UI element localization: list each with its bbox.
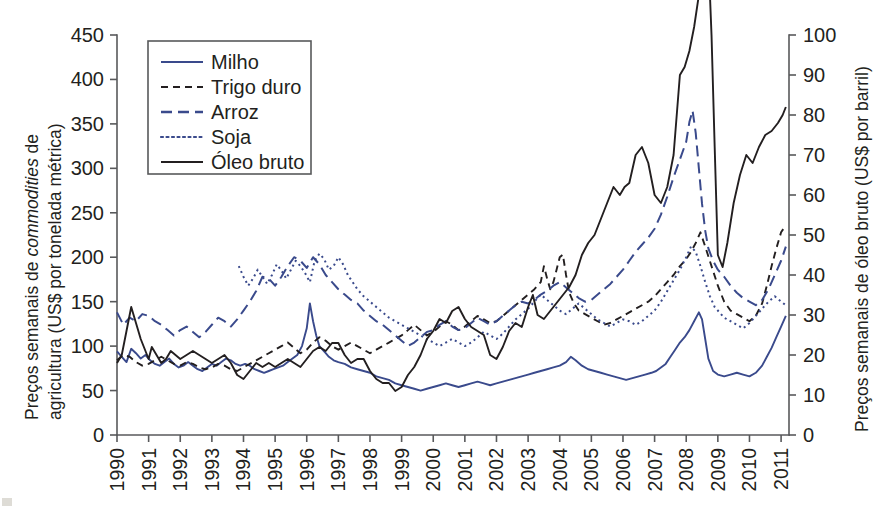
ylabel-left-line2: agricultura (US$ por tonelada métrica) xyxy=(45,123,65,420)
y-tick-label-left: 400 xyxy=(71,68,104,90)
y-tick-label-right: 20 xyxy=(803,344,825,366)
y-tick-label-left: 250 xyxy=(71,202,104,224)
y-axis-right-ticks: 0102030405060708090100 xyxy=(789,24,836,446)
legend-label-soja: Soja xyxy=(211,126,252,148)
x-tick-label: 1997 xyxy=(327,448,349,491)
x-tick-label: 1994 xyxy=(232,448,254,492)
y-tick-label-right: 60 xyxy=(803,184,825,206)
y-tick-label-right: 40 xyxy=(803,264,825,286)
x-tick-label: 2007 xyxy=(644,448,666,491)
x-tick-label: 2005 xyxy=(580,448,602,492)
x-tick-label: 1998 xyxy=(359,448,381,491)
legend-label-arroz: Arroz xyxy=(211,101,259,123)
y-axis-right-title: Preços semanais de óleo bruto (US$ por b… xyxy=(852,66,872,432)
series-line-milho xyxy=(117,303,786,390)
y-tick-label-right: 70 xyxy=(803,144,825,166)
x-tick-label: 2010 xyxy=(738,448,760,492)
ylabel-left-part2: de xyxy=(22,134,42,158)
y-tick-label-left: 0 xyxy=(93,424,104,446)
y-tick-label-right: 50 xyxy=(803,224,825,246)
series-line-trigo-duro xyxy=(117,225,786,371)
commodity-prices-line-chart: 050100150200250300350400450 010203040506… xyxy=(0,0,883,511)
chart-figure: 050100150200250300350400450 010203040506… xyxy=(0,0,883,511)
x-tick-label: 2009 xyxy=(707,448,729,491)
y-tick-label-left: 100 xyxy=(71,335,104,357)
x-tick-label: 2011 xyxy=(770,448,792,490)
x-tick-label: 2008 xyxy=(675,448,697,491)
legend-label-milho: Milho xyxy=(211,51,259,73)
x-tick-label: 1999 xyxy=(391,448,413,491)
y-tick-label-right: 90 xyxy=(803,64,825,86)
y-tick-label-left: 300 xyxy=(71,157,104,179)
x-tick-label: 1991 xyxy=(138,448,160,491)
x-tick-label: 2000 xyxy=(422,448,444,492)
x-tick-label: 1996 xyxy=(296,448,318,491)
legend-label-trigo-duro: Trigo duro xyxy=(211,76,301,98)
x-tick-label: 1990 xyxy=(106,448,128,492)
y-tick-label-left: 350 xyxy=(71,113,104,135)
y-tick-label-right: 10 xyxy=(803,384,825,406)
x-tick-label: 1993 xyxy=(201,448,223,491)
ylabel-left-part1: Preços semanais de xyxy=(22,257,42,420)
y-tick-label-left: 450 xyxy=(71,24,104,46)
chart-legend: MilhoTrigo duroArrozSojaÓleo bruto xyxy=(148,41,311,174)
x-tick-label: 1995 xyxy=(264,448,286,492)
x-tick-label: 2001 xyxy=(454,448,476,491)
y-tick-label-right: 80 xyxy=(803,104,825,126)
y-axis-left-title: Preços semanais de commodities de agricu… xyxy=(22,123,65,420)
y-tick-label-right: 30 xyxy=(803,304,825,326)
x-tick-label: 1992 xyxy=(169,448,191,491)
x-tick-label: 2003 xyxy=(517,448,539,491)
svg-text:Preços semanais de commodities: Preços semanais de commodities de xyxy=(22,134,42,420)
x-tick-label: 2002 xyxy=(485,448,507,491)
ylabel-left-emphasis: commodities xyxy=(22,158,42,256)
y-tick-label-right: 0 xyxy=(803,424,814,446)
legend-label-leo-bruto: Óleo bruto xyxy=(211,151,304,173)
x-tick-label: 2004 xyxy=(549,448,571,492)
y-tick-label-left: 200 xyxy=(71,246,104,268)
x-tick-label: 2006 xyxy=(612,448,634,491)
y-axis-left-ticks: 050100150200250300350400450 xyxy=(71,24,117,446)
y-tick-label-left: 150 xyxy=(71,291,104,313)
x-axis-ticks: 1990199119921993199419951996199719981999… xyxy=(106,435,792,491)
y-tick-label-right: 100 xyxy=(803,24,836,46)
y-tick-label-left: 50 xyxy=(82,380,104,402)
scan-artifact xyxy=(2,498,12,506)
